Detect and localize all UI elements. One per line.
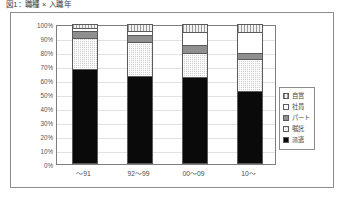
legend-item-label: 自営 [292,93,304,99]
legend-item-shokutaku[interactable]: 嘱託 [283,124,310,134]
legend-item-label: パート [292,115,310,121]
x-axis-tick-label: 10〜 [241,168,256,178]
legend-swatch-icon [283,126,289,132]
bar-5-stack[interactable] [237,24,263,164]
bar-segment-shokutaku[interactable] [72,38,98,69]
bar-segment-jiei[interactable] [127,24,153,31]
chart-frame: 100%90%80%70%60%50%40%30%20%10%0% 〜9192〜… [10,12,334,188]
plot-area [56,25,276,165]
legend-swatch-icon [283,137,289,143]
bar-segment-shokutaku[interactable] [237,59,263,91]
y-axis-tick-label: 0% [44,162,53,169]
bar-segment-haken[interactable] [127,76,153,164]
bar-segment-shain[interactable] [182,32,208,45]
legend-swatch-icon [283,115,289,121]
bar-segment-part[interactable] [182,45,208,53]
bar-5-stack[interactable] [72,24,98,164]
legend-item-label: 嘱託 [292,126,304,132]
y-axis-tick-label: 10% [40,148,53,155]
legend-item-label: 派遣 [292,137,304,143]
legend-swatch-icon [283,93,289,99]
y-axis-tick-label: 80% [40,50,53,57]
y-axis-labels: 100%90%80%70%60%50%40%30%20%10%0% [21,25,53,165]
y-axis-tick-label: 70% [40,64,53,71]
legend-item-part[interactable]: パート [283,113,310,123]
bar-segment-jiei[interactable] [182,24,208,32]
bar-5-stack[interactable] [182,24,208,164]
y-axis-tick-label: 20% [40,134,53,141]
y-axis-tick-label: 30% [40,120,53,127]
x-axis-labels: 〜9192〜9900〜0910〜 [56,168,276,182]
figure-title: 図1：職種 × 入職年 [6,0,71,9]
bar-segment-part[interactable] [127,35,153,42]
y-axis-tick-label: 60% [40,78,53,85]
legend-swatch-icon [283,104,289,110]
y-axis-tick-label: 90% [40,36,53,43]
bar-segment-shain[interactable] [237,32,263,53]
bar-segment-haken[interactable] [72,69,98,164]
y-axis-tick-label: 40% [40,106,53,113]
x-axis-tick-label: 〜91 [76,168,91,178]
chart-legend: 自営社員パート嘱託派遣 [279,87,315,150]
legend-item-label: 社員 [292,104,304,110]
bar-segment-jiei[interactable] [237,24,263,32]
bar-segment-shokutaku[interactable] [127,42,153,76]
legend-item-jiei[interactable]: 自営 [283,91,310,101]
x-axis-tick-label: 00〜09 [182,168,204,178]
bar-5-stack[interactable] [127,24,153,164]
y-axis-tick-label: 100% [37,22,53,29]
legend-item-shain[interactable]: 社員 [283,102,310,112]
bar-segment-haken[interactable] [237,91,263,164]
legend-item-haken[interactable]: 派遣 [283,135,310,145]
bar-segment-haken[interactable] [182,77,208,164]
bar-segment-shokutaku[interactable] [182,53,208,77]
y-axis-tick-label: 50% [40,92,53,99]
x-axis-tick-label: 92〜99 [127,168,149,178]
bar-segment-part[interactable] [72,31,98,38]
